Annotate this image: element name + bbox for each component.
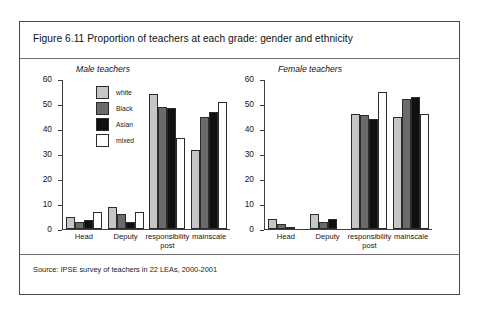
bar-white <box>66 217 75 230</box>
y-tick-20: 20 <box>58 180 62 181</box>
x-axis-female <box>264 229 432 230</box>
y-tick-label-30: 30 <box>43 149 52 159</box>
bar-asian <box>369 119 378 229</box>
y-tick-50: 50 <box>260 105 264 106</box>
bar-white <box>393 117 402 230</box>
chart-title-male: Male teachers <box>76 64 130 74</box>
source-note: Source: IPSE survey of teachers in 22 LE… <box>33 265 217 274</box>
y-tick-label-0: 0 <box>47 224 52 234</box>
bar-black <box>117 214 126 229</box>
divider-top <box>20 58 459 59</box>
bar-asian <box>411 97 420 230</box>
category-label: responsibility post <box>145 233 189 250</box>
legend-label-asian: Asian <box>116 121 133 128</box>
legend-swatch-asian-icon <box>96 118 109 131</box>
bar-white <box>351 114 360 229</box>
legend-item-mixed: mixed <box>96 132 158 148</box>
category-label: mainscale <box>394 233 428 242</box>
bar-black <box>158 107 167 230</box>
y-tick-label-30: 30 <box>245 149 254 159</box>
bar-asian <box>209 112 218 230</box>
figure-container: Figure 6.11 Proportion of teachers at ea… <box>19 21 460 295</box>
y-tick-label-50: 50 <box>245 99 254 109</box>
legend-swatch-black-icon <box>96 102 109 115</box>
category-label: Deputy <box>114 233 138 242</box>
bar-asian <box>286 227 295 230</box>
category-label: Deputy <box>316 233 340 242</box>
y-tick-30: 30 <box>260 155 264 156</box>
bar-black <box>75 222 84 230</box>
y-tick-40: 40 <box>58 130 62 131</box>
x-axis-male <box>62 229 230 230</box>
y-tick-label-20: 20 <box>245 174 254 184</box>
bar-group: Head <box>265 80 307 229</box>
y-tick-20: 20 <box>260 180 264 181</box>
legend-item-black: Black <box>96 100 158 116</box>
legend-item-asian: Asian <box>96 116 158 132</box>
bar-mixed <box>218 102 227 230</box>
legend-swatch-white-icon <box>96 86 109 99</box>
bar-group: mainscale <box>390 80 432 229</box>
bar-group: responsibility post <box>349 80 391 229</box>
legend-item-white: white <box>96 84 158 100</box>
bar-black <box>402 99 411 229</box>
y-tick-10: 10 <box>58 205 62 206</box>
bar-mixed <box>378 92 387 230</box>
y-tick-0: 0 <box>260 230 264 231</box>
bar-black <box>200 117 209 230</box>
bar-mixed <box>135 212 144 230</box>
plot-area-female: 6050403020100 HeadDeputyresponsibility p… <box>264 80 432 230</box>
chart-panel-male: Male teachers 6050403020100 HeadDeputyre… <box>32 64 240 252</box>
category-label: Head <box>75 233 93 242</box>
category-label: mainscale <box>192 233 226 242</box>
y-tick-0: 0 <box>58 230 62 231</box>
bar-group: mainscale <box>188 80 230 229</box>
bar-black <box>277 224 286 229</box>
legend-swatch-mixed-icon <box>96 134 109 147</box>
y-tick-label-10: 10 <box>245 199 254 209</box>
bar-black <box>360 115 369 229</box>
divider-bottom <box>20 254 459 255</box>
bar-groups-female: HeadDeputyresponsibility postmainscale <box>265 80 432 229</box>
y-tick-50: 50 <box>58 105 62 106</box>
y-tick-label-40: 40 <box>245 124 254 134</box>
bar-asian <box>328 219 337 229</box>
chart-panel-female: Female teachers 6050403020100 HeadDeputy… <box>234 64 442 252</box>
figure-title: Figure 6.11 Proportion of teachers at ea… <box>33 33 353 44</box>
bar-asian <box>126 222 135 230</box>
category-label: Head <box>277 233 295 242</box>
y-tick-30: 30 <box>58 155 62 156</box>
y-tick-label-60: 60 <box>43 74 52 84</box>
bar-group: Deputy <box>307 80 349 229</box>
chart-title-female: Female teachers <box>278 64 342 74</box>
bar-mixed <box>420 114 429 229</box>
bar-white <box>191 150 200 229</box>
bar-mixed <box>176 138 185 229</box>
y-tick-label-0: 0 <box>249 224 254 234</box>
y-tick-60: 60 <box>58 80 62 81</box>
bar-asian <box>84 220 93 229</box>
bar-mixed <box>93 212 102 230</box>
bar-white <box>108 207 117 230</box>
chart-legend: white Black Asian mixed <box>96 84 158 148</box>
bar-white <box>310 214 319 229</box>
bar-white <box>268 219 277 229</box>
bar-black <box>319 222 328 230</box>
y-tick-label-50: 50 <box>43 99 52 109</box>
category-label: responsibility post <box>347 233 391 250</box>
legend-label-black: Black <box>116 105 133 112</box>
bar-asian <box>167 108 176 229</box>
y-tick-label-20: 20 <box>43 174 52 184</box>
y-tick-label-40: 40 <box>43 124 52 134</box>
y-tick-10: 10 <box>260 205 264 206</box>
legend-label-white: white <box>116 89 132 96</box>
y-tick-label-10: 10 <box>43 199 52 209</box>
legend-label-mixed: mixed <box>116 137 134 144</box>
y-tick-label-60: 60 <box>245 74 254 84</box>
y-tick-60: 60 <box>260 80 264 81</box>
y-tick-40: 40 <box>260 130 264 131</box>
